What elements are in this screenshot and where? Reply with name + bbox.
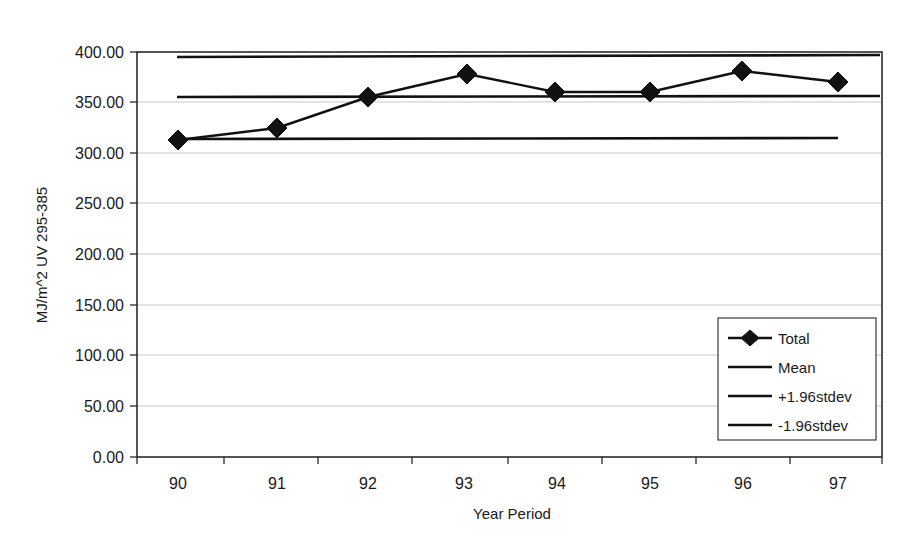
ref-line-mean [177, 96, 880, 97]
legend-label-plus-stdev: +1.96stdev [778, 388, 852, 405]
legend-label-mean: Mean [778, 359, 816, 376]
chart-background [0, 0, 922, 557]
x-tick-label-91: 91 [268, 475, 286, 492]
y-axis-title: MJ/m^2 UV 295-385 [33, 187, 50, 323]
y-tick-label-50: 50.00 [84, 398, 124, 415]
chart-container: 400.00 350.00 300.00 250.00 200.00 150.0… [0, 0, 922, 557]
x-tick-label-96: 96 [734, 475, 752, 492]
ref-line-minus-1-96-stdev [177, 138, 838, 139]
y-tick-label-400: 400.00 [75, 44, 124, 61]
x-axis-title: Year Period [473, 505, 551, 522]
x-tick-label-94: 94 [548, 475, 566, 492]
y-tick-label-300: 300.00 [75, 145, 124, 162]
x-tick-label-92: 92 [359, 475, 377, 492]
legend-label-minus-stdev: -1.96stdev [778, 417, 849, 434]
x-tick-label-93: 93 [455, 475, 473, 492]
y-tick-label-250: 250.00 [75, 195, 124, 212]
x-tick-label-90: 90 [169, 475, 187, 492]
y-tick-label-100: 100.00 [75, 347, 124, 364]
y-tick-label-200: 200.00 [75, 246, 124, 263]
y-tick-label-350: 350.00 [75, 94, 124, 111]
chart-legend[interactable]: Total Mean +1.96stdev -1.96stdev [718, 318, 876, 440]
y-tick-label-150: 150.00 [75, 297, 124, 314]
line-chart: 400.00 350.00 300.00 250.00 200.00 150.0… [0, 0, 922, 557]
x-tick-label-95: 95 [641, 475, 659, 492]
y-tick-label-0: 0.00 [93, 449, 124, 466]
x-tick-label-97: 97 [829, 475, 847, 492]
legend-label-total: Total [778, 330, 810, 347]
